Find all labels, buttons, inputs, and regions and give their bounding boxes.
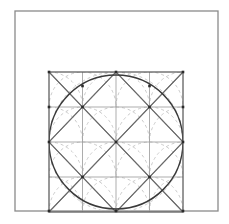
grid-node-marker [48,210,51,213]
grid-node-marker [182,210,185,213]
page-background [0,0,229,224]
grid-node-marker [115,71,118,74]
grid-node-marker [48,141,51,144]
grid-node-marker [48,71,51,74]
grid-node-marker [115,210,118,213]
grid-node-marker [182,141,185,144]
grid-node-marker [182,106,185,109]
grid-node-marker [81,85,84,88]
grid-node-marker [148,176,151,179]
grid-node-marker [48,106,51,109]
grid-node-marker [81,176,84,179]
grid-node-marker [182,71,185,74]
grid-node-marker [148,106,151,109]
grid-node-marker [81,106,84,109]
geometric-figure-canvas [0,0,229,224]
grid-node-marker [115,141,118,144]
figure-page [0,0,229,224]
grid-node-marker [148,85,151,88]
